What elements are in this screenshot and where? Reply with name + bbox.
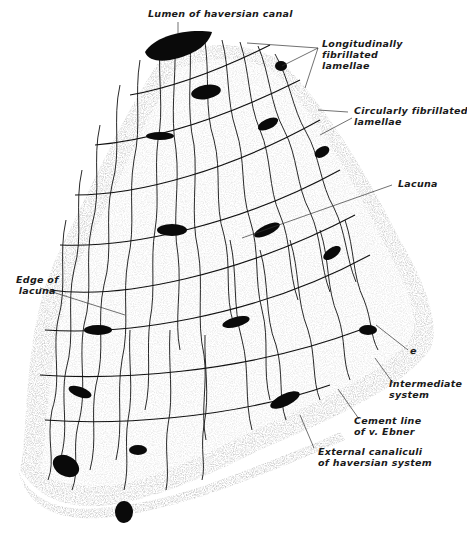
label-line: Circularly fibrillated xyxy=(354,105,467,116)
lacuna xyxy=(115,501,133,523)
lacuna xyxy=(157,224,187,236)
label-external-canaliculi: External canaliculi of haversian system xyxy=(318,446,432,468)
label-line: Longitudinally xyxy=(322,38,403,49)
lacuna xyxy=(84,325,112,335)
label-lacuna: Lacuna xyxy=(398,178,438,189)
label-line: Edge of xyxy=(16,274,59,285)
label-line: of haversian system xyxy=(318,457,432,468)
label-line: of v. Ebner xyxy=(354,426,421,437)
label-line: Cement line xyxy=(354,415,421,426)
label-lumen-of-haversian-canal: Lumen of haversian canal xyxy=(148,8,293,19)
label-edge-of-lacuna: Edge of lacuna xyxy=(16,274,59,296)
label-line: lamellae xyxy=(354,116,467,127)
label-line: lamellae xyxy=(322,60,403,71)
label-line: External canaliculi xyxy=(318,446,432,457)
label-longitudinally-fibrillated-lamellae: Longitudinally fibrillated lamellae xyxy=(322,38,403,71)
label-e: e xyxy=(410,345,417,356)
label-line: fibrillated xyxy=(322,49,403,60)
label-intermediate-system: Intermediate system xyxy=(389,378,462,400)
lacuna xyxy=(146,132,174,140)
lacuna xyxy=(359,325,377,335)
label-cement-line-of-v-ebner: Cement line of v. Ebner xyxy=(354,415,421,437)
lacuna xyxy=(129,445,147,455)
label-line: lacuna xyxy=(16,285,59,296)
label-circularly-fibrillated-lamellae: Circularly fibrillated lamellae xyxy=(354,105,467,127)
label-line: system xyxy=(389,389,462,400)
lacuna xyxy=(275,61,287,71)
haversian-system-figure: Lumen of haversian canal Longitudinally … xyxy=(0,0,467,534)
label-line: Intermediate xyxy=(389,378,462,389)
